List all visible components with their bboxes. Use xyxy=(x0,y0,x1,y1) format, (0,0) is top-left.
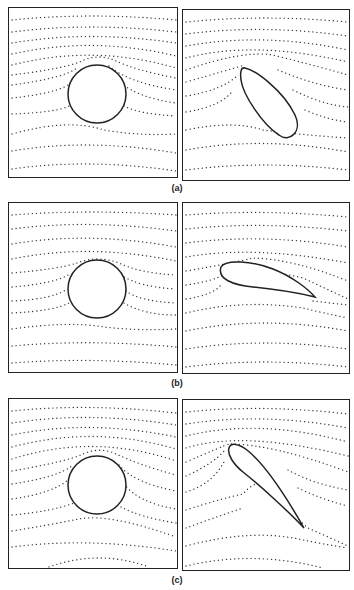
airfoil-shape xyxy=(229,444,304,528)
streamlines-circle-b xyxy=(9,203,179,374)
streamlines-circle-c xyxy=(9,399,179,570)
airfoil-shape xyxy=(220,262,315,297)
streamlines-airfoil-c xyxy=(183,400,351,572)
streamlines-airfoil-b xyxy=(183,203,351,375)
panel-b-left xyxy=(8,202,178,373)
cylinder-shape xyxy=(68,260,126,318)
caption-c: (c) xyxy=(0,575,354,585)
egg-shape xyxy=(241,68,298,138)
panel-a-left xyxy=(8,7,178,178)
cylinder-shape xyxy=(68,456,126,514)
panel-c-left xyxy=(8,398,178,569)
panel-b-right xyxy=(182,202,350,374)
streamlines-circle-a xyxy=(9,8,179,179)
panel-a-right xyxy=(182,9,350,181)
caption-b: (b) xyxy=(0,378,354,388)
cylinder-shape xyxy=(68,65,126,123)
caption-a: (a) xyxy=(0,183,354,193)
panel-c-right xyxy=(182,399,350,571)
streamlines-egg-a xyxy=(183,10,351,182)
